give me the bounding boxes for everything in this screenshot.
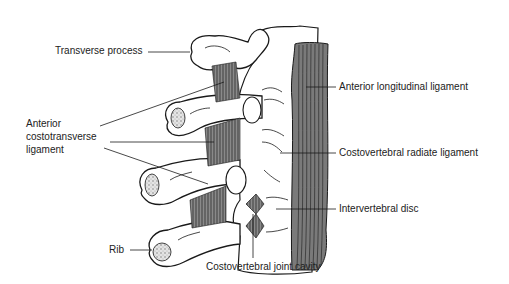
label-anterior-costotransverse-line2: costotransverse xyxy=(26,131,97,143)
costotransverse-ligament-lower xyxy=(190,186,226,228)
label-anterior-longitudinal-ligament: Anterior longitudinal ligament xyxy=(339,81,468,93)
costotransverse-ligament-upper xyxy=(212,62,240,102)
label-anterior-costotransverse-line1: Anterior xyxy=(26,118,61,130)
label-costovertebral-radiate-ligament: Costovertebral radiate ligament xyxy=(339,147,478,159)
rib-cross-section-lower xyxy=(153,243,171,261)
label-transverse-process: Transverse process xyxy=(55,45,142,57)
label-rib: Rib xyxy=(109,244,124,256)
rib-cross-section-upper xyxy=(171,108,185,128)
rib-cross-section-middle xyxy=(145,174,159,196)
label-anterior-costotransverse-line3: ligament xyxy=(26,144,64,156)
label-costovertebral-joint-cavity: Costovertebral joint cavity xyxy=(206,261,321,273)
label-intervertebral-disc: Intervertebral disc xyxy=(339,203,418,215)
